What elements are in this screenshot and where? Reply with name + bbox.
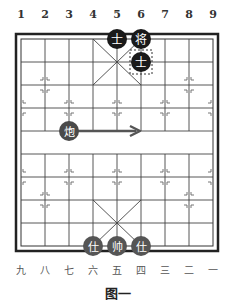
- piece-label: 士: [135, 56, 147, 70]
- grid-lines: [21, 39, 213, 246]
- col-cn-9: 九: [14, 262, 28, 277]
- col-cn-5: 五: [110, 262, 124, 277]
- piece-label: 仕: [136, 241, 147, 254]
- figure-caption: 图一: [0, 283, 236, 302]
- piece-red-advisor-left[interactable]: 仕: [83, 236, 103, 256]
- col-cn-8: 八: [38, 262, 52, 277]
- piece-black-advisor-left[interactable]: 士: [107, 29, 127, 49]
- piece-red-advisor-right[interactable]: 仕: [131, 236, 151, 256]
- col-cn-6: 六: [86, 262, 100, 277]
- piece-black-general[interactable]: 将: [131, 29, 151, 49]
- col-cn-4: 四: [134, 262, 148, 277]
- piece-label: 帅: [112, 241, 123, 254]
- piece-red-marshal[interactable]: 帅: [107, 236, 127, 256]
- piece-label: 仕: [88, 241, 99, 254]
- col-cn-7: 七: [62, 262, 76, 277]
- move-arrow: [76, 126, 140, 136]
- piece-black-advisor-center[interactable]: 士: [131, 52, 151, 72]
- bottom-column-numbers: 九 八 七 六 五 四 三 二 一: [0, 262, 236, 276]
- piece-label: 士: [111, 33, 123, 47]
- col-cn-1: 一: [206, 262, 220, 277]
- piece-red-cannon[interactable]: 炮: [59, 121, 79, 141]
- piece-label: 将: [135, 33, 147, 47]
- xiangqi-board: 士 将 士 炮 仕 帅 仕: [0, 0, 236, 262]
- col-cn-3: 三: [158, 262, 172, 277]
- piece-label: 炮: [64, 126, 75, 139]
- col-cn-2: 二: [182, 262, 196, 277]
